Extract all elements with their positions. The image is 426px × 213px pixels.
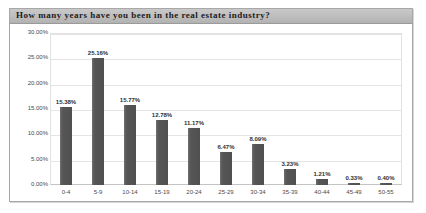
x-axis-tick-label: 40-44 <box>314 189 329 195</box>
bar[interactable] <box>284 169 296 185</box>
bar-value-label: 15.38% <box>56 99 76 105</box>
bar-slot: 15.38% <box>50 33 82 185</box>
bar-slot: 3.23% <box>274 33 306 185</box>
x-axis-tick-label: 0-4 <box>62 189 71 195</box>
bar[interactable] <box>92 58 104 185</box>
bar-value-label: 3.23% <box>281 161 298 167</box>
bar-value-label: 11.17% <box>184 120 204 126</box>
bar-slot: 8.09% <box>242 33 274 185</box>
bar-value-label: 0.40% <box>377 175 394 181</box>
bar-value-label: 8.09% <box>249 136 266 142</box>
bar-slot: 12.78% <box>146 33 178 185</box>
bar[interactable] <box>348 183 360 185</box>
y-axis-tick-label: 10.00% <box>10 130 48 136</box>
bar[interactable] <box>188 128 200 185</box>
bar-slot: 15.77% <box>114 33 146 185</box>
y-axis-tick-label: 25.00% <box>10 54 48 60</box>
x-axis-tick-label: 15-19 <box>154 189 169 195</box>
bar[interactable] <box>252 144 264 185</box>
x-axis-tick-label: 35-39 <box>282 189 297 195</box>
bars-layer: 15.38%25.16%15.77%12.78%11.17%6.47%8.09%… <box>50 33 402 185</box>
bar[interactable] <box>220 152 232 185</box>
y-axis-tick-label: 0.00% <box>10 181 48 187</box>
x-axis-tick-label: 25-29 <box>218 189 233 195</box>
bar-slot: 6.47% <box>210 33 242 185</box>
y-axis-tick-label: 15.00% <box>10 105 48 111</box>
bar-slot: 0.33% <box>338 33 370 185</box>
y-axis: 0.00%5.00%10.00%15.00%20.00%25.00%30.00% <box>10 33 48 185</box>
x-axis-tick-label: 50-55 <box>378 189 393 195</box>
bar-value-label: 1.21% <box>313 171 330 177</box>
x-axis: 0-45-910-1415-1920-2425-2930-3435-3940-4… <box>50 189 402 203</box>
page-title: How many years have you been in the real… <box>16 10 270 20</box>
x-axis-tick-label: 10-14 <box>122 189 137 195</box>
bar-slot: 1.21% <box>306 33 338 185</box>
bar-value-label: 12.78% <box>152 112 172 118</box>
bar-slot: 0.40% <box>370 33 402 185</box>
bar-slot: 11.17% <box>178 33 210 185</box>
bar-slot: 25.16% <box>82 33 114 185</box>
bar[interactable] <box>124 105 136 185</box>
bar-value-label: 6.47% <box>217 144 234 150</box>
x-axis-tick-label: 20-24 <box>186 189 201 195</box>
y-axis-tick-label: 20.00% <box>10 80 48 86</box>
bar-value-label: 15.77% <box>120 97 140 103</box>
x-axis-tick-label: 45-49 <box>346 189 361 195</box>
y-axis-tick-label: 30.00% <box>10 29 48 35</box>
chart-plot-wrapper: 0.00%5.00%10.00%15.00%20.00%25.00%30.00%… <box>10 25 412 201</box>
chart-widget: How many years have you been in the real… <box>9 8 413 202</box>
y-axis-tick-label: 5.00% <box>10 156 48 162</box>
bar[interactable] <box>380 183 392 185</box>
bar[interactable] <box>316 179 328 185</box>
bar[interactable] <box>156 120 168 185</box>
chart-title-bar: How many years have you been in the real… <box>10 9 412 24</box>
bar-value-label: 0.33% <box>345 175 362 181</box>
x-axis-tick-label: 5-9 <box>94 189 103 195</box>
bar[interactable] <box>60 107 72 185</box>
bar-value-label: 25.16% <box>88 50 108 56</box>
x-axis-tick-label: 30-34 <box>250 189 265 195</box>
